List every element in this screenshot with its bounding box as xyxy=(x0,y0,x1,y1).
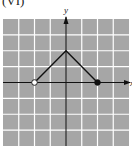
x-axis-label: x xyxy=(129,78,132,88)
closed-endpoint-marker xyxy=(95,80,101,86)
open-endpoint-marker xyxy=(32,80,38,86)
function-graph: x y xyxy=(0,0,132,150)
y-axis-label: y xyxy=(63,5,68,15)
